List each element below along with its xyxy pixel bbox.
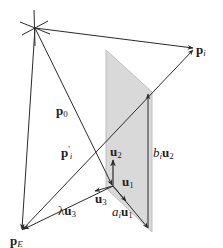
ray-to-pE xyxy=(22,28,35,229)
ray-to-pi xyxy=(35,28,193,48)
label-p-E: pE xyxy=(10,233,23,248)
label-p-prime-i: p'i xyxy=(61,144,73,161)
label-p-0: p0 xyxy=(56,103,68,119)
label-bi-u2: biu2 xyxy=(153,145,174,161)
vector-diagram: pi p0 p'i u2 u1 u3 biu2 aiu1 λu3 pE xyxy=(0,0,223,248)
label-p-i: pi xyxy=(196,42,206,58)
vector-p0 xyxy=(35,28,112,185)
label-u-3: u3 xyxy=(95,191,107,207)
